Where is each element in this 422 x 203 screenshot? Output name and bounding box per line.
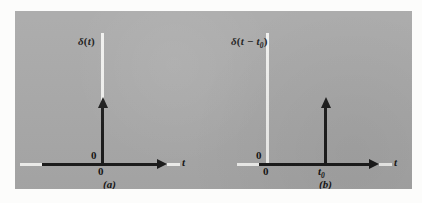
impulse-arrowhead-b	[321, 97, 331, 108]
figure-panel: δ(t) 0 0 t (a) δ(t−t0)	[15, 11, 412, 189]
x-axis-label-b: t	[394, 156, 397, 168]
paren-close-b: )	[264, 35, 268, 47]
impulse-arrowhead-a	[98, 97, 108, 108]
origin-tick-lower-a: 0	[98, 165, 104, 177]
origin-tick-upper-a: 0	[91, 149, 97, 161]
y-axis-guide-b	[266, 33, 269, 163]
y-axis-guide-a	[101, 33, 104, 106]
x-axis-tail-right-a	[167, 163, 180, 166]
x-axis-b	[259, 163, 371, 166]
subcaption-a: (a)	[103, 178, 116, 189]
x-axis-tail-a	[20, 163, 42, 166]
function-label-b: δ(t−t0)	[231, 35, 268, 50]
origin-tick-lower-b: 0	[263, 165, 269, 177]
x-axis-tail-b	[237, 163, 259, 166]
plot-delta-t: δ(t) 0 0 t (a)	[15, 11, 215, 189]
x-axis-tail-right-b	[379, 163, 392, 166]
origin-tick-upper-b: 0	[256, 149, 262, 161]
plot-delta-t-minus-t0: δ(t−t0) 0 0 t0 t (b)	[215, 11, 412, 189]
x-axis-arrowhead-a	[157, 159, 167, 169]
impulse-stem-a	[101, 106, 104, 164]
x-axis-arrowhead-b	[369, 159, 379, 169]
subcaption-b: (b)	[319, 178, 332, 189]
minus-operator-b: −	[244, 35, 256, 47]
x-axis-label-a: t	[182, 156, 185, 168]
impulse-stem-b	[324, 106, 327, 164]
paren-close-a: )	[91, 35, 95, 47]
function-label-a: δ(t)	[78, 35, 95, 47]
figure-page: δ(t) 0 0 t (a) δ(t−t0)	[0, 0, 422, 203]
